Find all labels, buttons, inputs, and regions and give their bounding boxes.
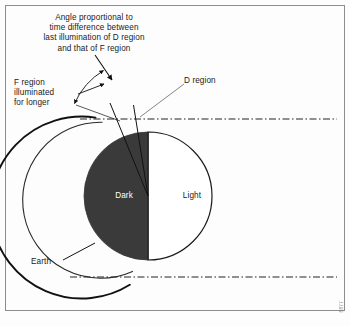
- angle-caption: Angle proportional to time difference be…: [18, 13, 170, 54]
- figure-container: Angle proportional to time difference be…: [0, 0, 350, 326]
- earth-label: Earth: [31, 257, 51, 267]
- light-hemisphere-label: Light: [172, 191, 212, 201]
- figure-code-label: 8877: [339, 301, 344, 312]
- f-region-caption: F region illuminated for longer: [14, 78, 94, 109]
- dark-hemisphere-label: Dark: [104, 191, 144, 201]
- d-region-leader: [140, 84, 184, 117]
- earth-leader: [63, 243, 95, 260]
- d-region-label: D region: [184, 76, 216, 86]
- angle-caption-leader: [95, 55, 112, 80]
